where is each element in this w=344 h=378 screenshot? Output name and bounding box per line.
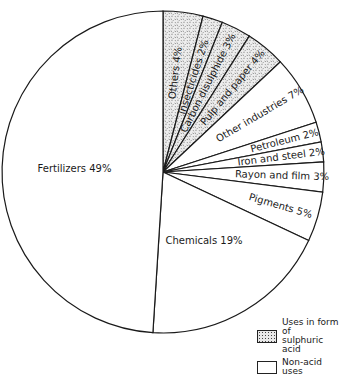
legend: Uses in form of sulphuric acid Non-acid … (257, 318, 344, 378)
stipple-swatch-icon (257, 330, 277, 343)
blank-swatch-icon (257, 361, 277, 374)
legend-item-acid: Uses in form of sulphuric acid (257, 318, 344, 354)
legend-text-line1: Uses in form of (282, 318, 344, 336)
slice-label-chemicals: Chemicals 19% (165, 235, 242, 246)
legend-text-line2: sulphuric acid (282, 336, 344, 354)
legend-label-nonacid: Non-acid uses (282, 358, 344, 376)
legend-item-nonacid: Non-acid uses (257, 358, 344, 376)
slice-label-fertilizers: Fertilizers 49% (38, 163, 112, 174)
legend-label-acid: Uses in form of sulphuric acid (282, 318, 344, 354)
